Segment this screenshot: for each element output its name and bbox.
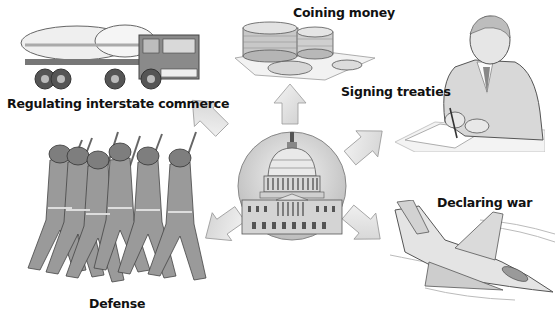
label-signing-treaties: Signing treaties: [341, 84, 451, 99]
marching-soldiers-icon: [10, 130, 210, 290]
label-regulating-commerce: Regulating interstate commerce: [7, 96, 229, 111]
arrow-up-icon: [274, 84, 306, 124]
man-signing-document-icon: [395, 12, 545, 152]
fighter-jet-icon: [385, 200, 560, 305]
coins-icon: [235, 20, 375, 85]
federal-powers-diagram: Regulating interstate commerce Coining m…: [0, 0, 560, 315]
tanker-truck-icon: [15, 17, 200, 92]
label-coining-money: Coining money: [293, 5, 395, 20]
label-declaring-war: Declaring war: [437, 195, 532, 210]
capitol-building-icon: [236, 130, 348, 242]
label-defense: Defense: [89, 296, 145, 311]
